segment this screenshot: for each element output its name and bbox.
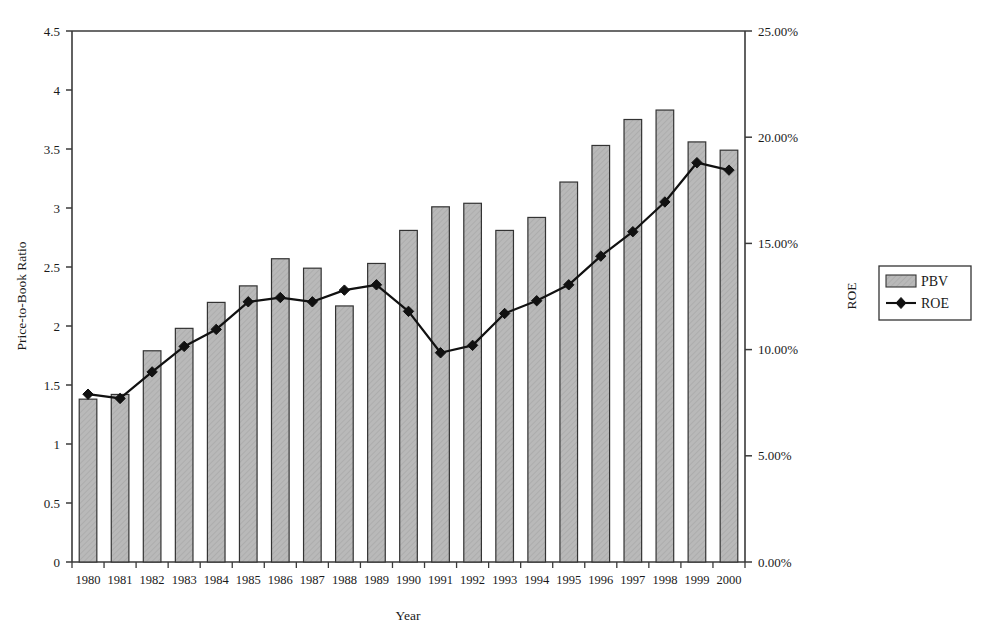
y-axis-right-tick-label: 15.00% [758,236,798,251]
x-axis-category-label: 2000 [716,573,741,587]
bar-1985 [239,286,257,562]
bar-1988 [336,306,354,562]
y-axis-right-tick-label: 10.00% [758,342,798,357]
bar-1994 [528,217,546,562]
bar-1995 [560,182,578,562]
x-axis-category-label: 1996 [588,573,613,587]
y-axis-right-tick-label: 0.00% [758,555,792,570]
bar-1998 [656,110,674,562]
y-axis-left-tick-label: 1 [54,437,61,452]
bar-1990 [400,230,418,562]
bar-1982 [143,351,161,562]
y-axis-left-tick-label: 2 [54,319,61,334]
bar-1989 [368,263,386,562]
x-axis-category-label: 1993 [492,573,517,587]
y-axis-right-tick-label: 25.00% [758,24,798,39]
bar-1986 [271,259,289,562]
y-axis-left-tick-label: 4.5 [44,24,60,39]
legend-label-roe: ROE [921,296,949,311]
bar-1983 [175,328,193,562]
x-axis-category-label: 1981 [108,573,133,587]
y-axis-left-tick-label: 0.5 [44,496,60,511]
x-axis-category-label: 1989 [364,573,389,587]
bar-1996 [592,145,610,562]
x-axis-category-label: 1998 [652,573,677,587]
y-axis-right-tick-label: 5.00% [758,448,792,463]
x-axis-title: Year [396,608,421,623]
legend-label-pbv: PBV [921,274,948,289]
x-axis-category-label: 1999 [684,573,709,587]
y-axis-left-tick-label: 2.5 [44,260,60,275]
bar-1993 [496,230,514,562]
y-axis-left-tick-label: 3.5 [44,142,60,157]
bar-1992 [464,203,482,562]
x-axis-category-label: 1986 [268,573,293,587]
x-axis-category-label: 1980 [76,573,101,587]
x-axis-category-label: 1984 [204,573,230,587]
y-axis-left-title: Price-to-Book Ratio [14,241,29,350]
chart-legend[interactable]: PBV ROE [879,266,971,320]
y-axis-right-tick-label: 20.00% [758,130,798,145]
bar-1984 [207,302,225,562]
bar-2000 [720,150,738,562]
x-axis-category-label: 1994 [524,573,550,587]
bar-1999 [688,142,706,562]
x-axis-category-label: 1982 [140,573,165,587]
bar-1980 [79,399,97,562]
x-axis-category-label: 1985 [236,573,261,587]
y-axis-left-tick-label: 3 [54,201,61,216]
x-axis-category-label: 1997 [620,573,645,587]
bar-1997 [624,120,642,563]
x-axis-category-label: 1987 [300,573,325,587]
y-axis-left-tick-label: 0 [54,555,61,570]
x-axis-category-label: 1988 [332,573,357,587]
price-to-book-roe-chart: 00.511.522.533.544.5 0.00%5.00%10.00%15.… [0,0,985,641]
y-axis-left-tick-label: 4 [54,83,61,98]
chart-container: 00.511.522.533.544.5 0.00%5.00%10.00%15.… [0,0,985,641]
x-axis-category-label: 1990 [396,573,421,587]
bar-1981 [111,394,129,562]
x-axis-category-label: 1992 [460,573,485,587]
legend-swatch-pbv [886,275,916,287]
y-axis-left-tick-label: 1.5 [44,378,60,393]
x-axis-category-label: 1991 [428,573,453,587]
x-axis-category-label: 1995 [556,573,581,587]
bar-1991 [432,207,450,562]
bar-1987 [304,268,322,562]
y-axis-right-title: ROE [844,283,859,310]
x-axis-category-label: 1983 [172,573,197,587]
